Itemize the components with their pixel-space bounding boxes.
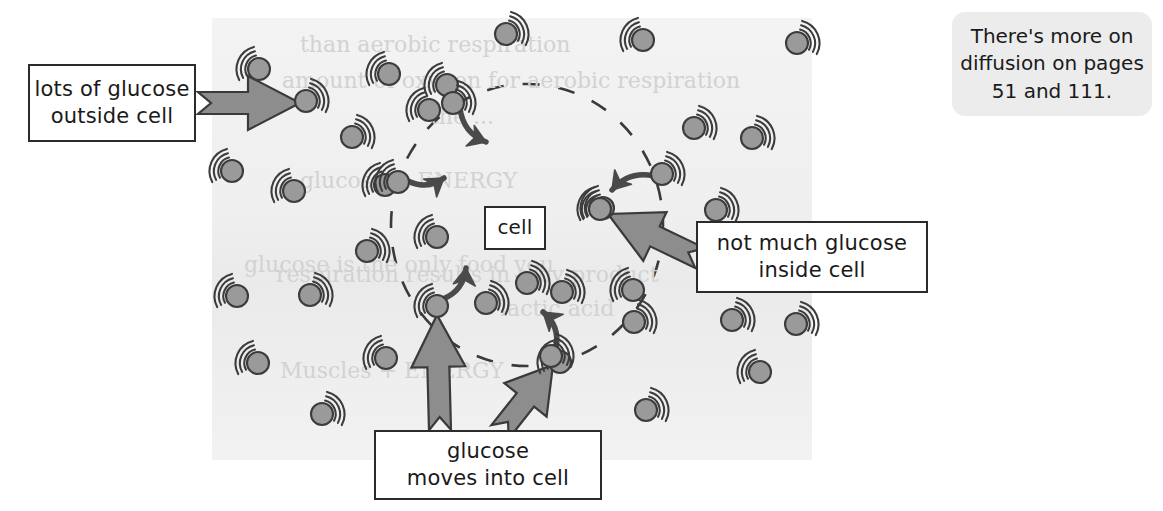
- molecule-body: [785, 313, 807, 335]
- molecule-body: [378, 63, 400, 85]
- label-line-1: glucose: [447, 439, 529, 463]
- molecule-body: [540, 345, 562, 367]
- label-not-much-glucose-inside-cell: not much glucose inside cell: [696, 221, 928, 293]
- molecule-body: [426, 226, 448, 248]
- molecule-body: [418, 99, 440, 121]
- ghost-text: than aerobic respiration: [300, 32, 571, 57]
- note-text: There's more on diffusion on pages 51 an…: [960, 23, 1144, 105]
- molecule-body: [635, 399, 657, 421]
- molecule-body: [551, 281, 573, 303]
- molecule-body: [283, 180, 305, 202]
- ghost-text: carbon dioxide + water: [398, 0, 661, 19]
- label-lots-of-glucose-outside-cell: lots of glucose outside cell: [28, 64, 196, 142]
- molecule-body: [375, 347, 397, 369]
- molecule-body: [387, 171, 409, 193]
- ghost-text: amount of oxygen for aerobic respiration: [282, 68, 740, 93]
- molecule-body: [426, 295, 448, 317]
- molecule-body: [247, 352, 269, 374]
- molecule-body: [221, 160, 243, 182]
- label-cell: cell: [484, 206, 546, 250]
- molecule-body: [623, 311, 645, 333]
- molecule-body: [299, 284, 321, 306]
- label-line-1: not much glucose: [717, 231, 907, 255]
- molecule-body: [721, 309, 743, 331]
- label-text: glucose moves into cell: [407, 438, 569, 492]
- note-diffusion-reference: There's more on diffusion on pages 51 an…: [952, 12, 1152, 116]
- molecule-body: [295, 90, 317, 112]
- note-line-2: diffusion on pages: [960, 51, 1144, 75]
- molecule-body: [248, 58, 270, 80]
- molecule-body: [741, 127, 763, 149]
- glucose-molecule-icon: [495, 12, 528, 45]
- label-line-2: inside cell: [758, 258, 865, 282]
- label-text: lots of glucose outside cell: [34, 76, 189, 130]
- molecule-body: [651, 163, 673, 185]
- label-text: cell: [497, 215, 532, 241]
- molecule-body: [749, 361, 771, 383]
- molecule-body: [495, 23, 517, 45]
- molecule-body: [226, 285, 248, 307]
- molecule-body: [442, 92, 464, 114]
- molecule-body: [341, 126, 363, 148]
- label-line-2: moves into cell: [407, 466, 569, 490]
- label-line-2: outside cell: [51, 104, 174, 128]
- molecule-body: [475, 292, 497, 314]
- molecule-body: [356, 240, 378, 262]
- label-glucose-moves-into-cell: glucose moves into cell: [374, 430, 602, 500]
- molecule-body: [622, 279, 644, 301]
- molecule-body: [683, 117, 705, 139]
- molecule-body: [786, 32, 808, 54]
- molecule-body: [632, 29, 654, 51]
- molecule-body: [311, 403, 333, 425]
- molecule-body: [589, 198, 611, 220]
- note-line-3: 51 and 111.: [992, 79, 1112, 103]
- molecule-body: [516, 272, 538, 294]
- label-text: not much glucose inside cell: [717, 230, 907, 284]
- molecule-body: [705, 199, 727, 221]
- note-line-1: There's more on: [971, 24, 1134, 48]
- label-line-1: lots of glucose: [34, 77, 189, 101]
- diagram-canvas: carbon dioxide + waterthan aerobic respi…: [0, 0, 1163, 511]
